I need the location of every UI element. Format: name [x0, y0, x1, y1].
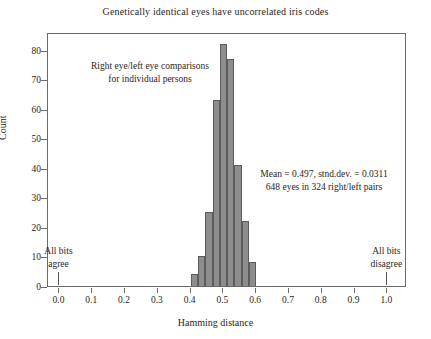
annotation-comparison-line2: for individual persons: [62, 73, 238, 86]
x-tick-mark: [124, 288, 125, 293]
x-axis-label: Hamming distance: [0, 317, 431, 328]
x-tick-label: 0.1: [74, 295, 108, 305]
x-tick-mark: [190, 288, 191, 293]
histogram-bar: [242, 221, 249, 286]
x-tick-label: 0.7: [271, 295, 305, 305]
x-tick-label: 0.9: [337, 295, 371, 305]
histogram-bar: [213, 100, 220, 286]
x-tick-mark: [255, 288, 256, 293]
pointer-tick-disagree: [386, 272, 387, 285]
chart-page: Genetically identical eyes have uncorrel…: [0, 0, 431, 339]
annotation-agree-line1: All bits: [23, 245, 93, 258]
histogram-bar: [198, 256, 205, 286]
y-tick-label: 80: [19, 46, 41, 56]
x-tick-mark: [222, 288, 223, 293]
x-tick-label: 0.2: [107, 295, 141, 305]
x-tick-mark: [354, 288, 355, 293]
x-tick-label: 0.5: [205, 295, 239, 305]
y-axis-label: Count: [0, 116, 8, 140]
x-tick-mark: [386, 288, 387, 293]
y-tick-label: 50: [19, 134, 41, 144]
chart-title: Genetically identical eyes have uncorrel…: [0, 6, 431, 17]
x-tick-mark: [58, 288, 59, 293]
y-tick-label: 20: [19, 223, 41, 233]
y-tick-label: 70: [19, 75, 41, 85]
x-tick-label: 0.8: [304, 295, 338, 305]
y-tick-mark: [41, 287, 47, 288]
histogram-bar: [205, 212, 213, 286]
y-tick-label: 0: [19, 282, 41, 292]
annotation-disagree-line2: disagree: [348, 258, 424, 271]
x-tick-label: 0.6: [238, 295, 272, 305]
histogram-bar: [249, 262, 256, 286]
pointer-tick-agree: [58, 272, 59, 285]
annotation-agree-line2: agree: [23, 258, 93, 271]
annotation-comparison: Right eye/left eye comparisons for indiv…: [62, 60, 238, 86]
x-tick-label: 0.3: [140, 295, 174, 305]
y-tick-label: 30: [19, 193, 41, 203]
annotation-stats-line2: 648 eyes in 324 right/left pairs: [232, 181, 416, 194]
x-tick-mark: [91, 288, 92, 293]
x-tick-label: 0.0: [41, 295, 75, 305]
x-tick-label: 0.4: [173, 295, 207, 305]
y-tick-label: 60: [19, 105, 41, 115]
annotation-disagree-line1: All bits: [348, 245, 424, 258]
annotation-all-bits-agree: All bits agree: [23, 245, 93, 271]
x-tick-label: 1.0: [369, 295, 403, 305]
x-tick-mark: [157, 288, 158, 293]
annotation-statistics: Mean = 0.497, stnd.dev. = 0.0311 648 eye…: [232, 168, 416, 194]
annotation-all-bits-disagree: All bits disagree: [348, 245, 424, 271]
x-tick-mark: [321, 288, 322, 293]
histogram-bar: [191, 274, 198, 286]
annotation-comparison-line1: Right eye/left eye comparisons: [62, 60, 238, 73]
y-tick-label: 40: [19, 164, 41, 174]
annotation-stats-line1: Mean = 0.497, stnd.dev. = 0.0311: [232, 168, 416, 181]
x-tick-mark: [288, 288, 289, 293]
